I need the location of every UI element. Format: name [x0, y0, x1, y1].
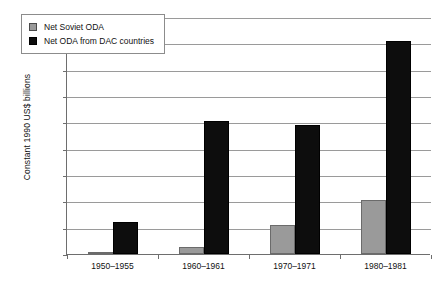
gridline	[67, 97, 431, 98]
y-tick-mark	[63, 71, 67, 72]
y-tick-mark	[63, 97, 67, 98]
legend-label-soviet: Net Soviet ODA	[44, 23, 104, 32]
y-tick-mark	[63, 202, 67, 203]
legend-swatch-icon-dac	[29, 37, 37, 45]
x-tick-mark	[340, 255, 341, 259]
x-tick-mark	[431, 255, 432, 259]
bar-soviet	[88, 252, 113, 254]
bar-dac	[295, 125, 320, 254]
y-tick-mark	[63, 229, 67, 230]
chart-legend: Net Soviet ODA Net ODA from DAC countrie…	[21, 14, 165, 54]
y-tick-mark	[63, 176, 67, 177]
legend-swatch-icon-soviet	[29, 23, 37, 31]
legend-item-net-soviet-oda: Net Soviet ODA	[29, 20, 154, 34]
gridline	[67, 123, 431, 124]
x-tick-mark	[158, 255, 159, 259]
x-tick-label: 1980–1981	[331, 261, 438, 271]
bar-soviet	[179, 247, 204, 254]
legend-label-dac: Net ODA from DAC countries	[44, 37, 154, 46]
bar-chart: Constant 1990 US$ billions 0501001502002…	[0, 0, 438, 292]
gridline	[67, 150, 431, 151]
x-tick-mark	[249, 255, 250, 259]
bar-soviet	[270, 225, 295, 254]
bar-dac	[204, 121, 229, 254]
bar-dac	[113, 222, 138, 254]
y-tick-mark	[63, 123, 67, 124]
gridline	[67, 176, 431, 177]
y-tick-mark	[63, 150, 67, 151]
bar-dac	[386, 41, 411, 254]
legend-item-net-oda-dac: Net ODA from DAC countries	[29, 34, 154, 48]
bar-soviet	[361, 200, 386, 254]
gridline	[67, 71, 431, 72]
x-tick-mark	[67, 255, 68, 259]
